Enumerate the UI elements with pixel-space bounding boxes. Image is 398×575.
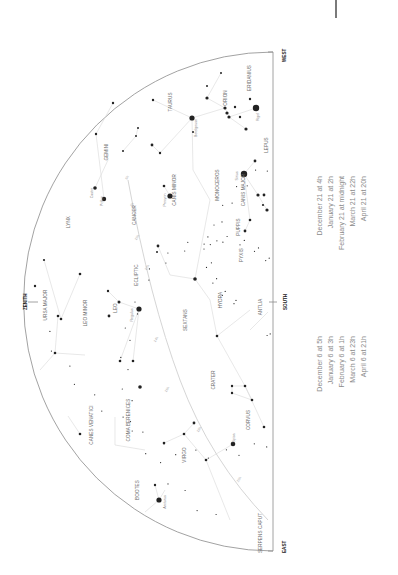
- star-label-sirius: Sirius: [235, 171, 239, 180]
- time-table-right-column: December 21 at 4h January 21 at 2h Febru…: [316, 176, 368, 250]
- time-row-right-1: December 21 at 4h: [316, 176, 323, 236]
- star-dot: [108, 315, 111, 318]
- ecliptic-hour-label: 6h: [124, 175, 129, 180]
- faint-star-dot: [222, 242, 223, 243]
- faint-star-dot: [165, 262, 166, 263]
- faint-star-dot: [132, 400, 133, 401]
- star-dot: [254, 160, 257, 163]
- faint-star-dot: [160, 462, 161, 463]
- star-dot: [118, 301, 121, 304]
- ecliptic-hour-label: 16h: [164, 386, 170, 393]
- constellation-label-antlia: ANTLIA: [258, 298, 263, 316]
- star-dot: [34, 285, 36, 287]
- star-dot: [251, 399, 254, 402]
- faint-star-dot: [213, 224, 214, 225]
- star-dot: [107, 290, 109, 292]
- star-dot: [112, 102, 114, 104]
- faint-star-dot: [137, 313, 138, 314]
- star-dot: [263, 194, 266, 197]
- star-dot: [159, 152, 161, 154]
- time-row-left-3: February 6 at 1h: [338, 336, 346, 387]
- faint-star-dot: [221, 221, 222, 222]
- star-dot: [263, 426, 266, 429]
- constellation-label-monoceros: MONOCEROS: [215, 169, 220, 201]
- faint-star-dot: [216, 278, 217, 279]
- ecliptic-hour-label: 20h: [236, 476, 242, 483]
- star-dot: [54, 352, 57, 355]
- constellation-label-gemini: GEMINI: [104, 144, 109, 161]
- faint-star-dot: [216, 240, 217, 241]
- star-dot: [135, 135, 137, 137]
- star-label-spica: Spica: [232, 434, 236, 443]
- faint-star-dot: [225, 291, 226, 292]
- time-table: December 21 at 4h January 21 at 2h Febru…: [316, 176, 368, 392]
- label-zenith: ZENITH: [23, 293, 28, 310]
- constellation-label-lynx: LYNX: [66, 216, 71, 228]
- faint-star-dot: [51, 351, 52, 352]
- star-dot: [122, 150, 124, 152]
- faint-star-dot: [211, 262, 212, 263]
- faint-star-dot: [175, 454, 176, 455]
- constellation-label-pyxis: PYXIS: [239, 248, 244, 262]
- time-table-left-column: December 6 at 5h January 6 at 3h Februar…: [316, 336, 368, 392]
- constellation-label-crater: CRATER: [211, 370, 216, 390]
- faint-star-dot: [49, 331, 50, 332]
- constellation-labels: ERIDANIUSORIONTAURUSGEMINILEPUSCANIS MIN…: [43, 65, 269, 553]
- faint-star-dot: [123, 417, 124, 418]
- star-dot: [249, 219, 252, 222]
- star-dot: [205, 96, 208, 99]
- star-dot: [193, 277, 197, 281]
- star-dot: [225, 111, 228, 114]
- star-dot: [95, 133, 97, 135]
- star-dot: [157, 245, 160, 248]
- faint-star-dot: [129, 340, 130, 341]
- constellation-label-virgo: VIRGO: [182, 447, 187, 463]
- faint-star-dot: [236, 186, 237, 187]
- star-dot: [156, 251, 158, 253]
- label-west: WEST: [282, 49, 287, 62]
- constellation-label-bootes: BOOTES: [135, 480, 140, 500]
- star-dot: [60, 318, 63, 321]
- constellation-label-ursa-major: URSA MAJOR: [43, 289, 48, 320]
- star-dot: [223, 106, 226, 109]
- constellation-label-lepus: LEPUS: [264, 137, 269, 153]
- time-row-left-4: March 6 at 23h: [349, 336, 356, 383]
- faint-star-dot: [149, 268, 150, 269]
- faint-star-dot: [235, 300, 236, 301]
- faint-star-dot: [239, 244, 240, 245]
- star-dot: [262, 204, 264, 206]
- faint-star-dot: [269, 258, 270, 259]
- star-dot: [227, 115, 230, 118]
- faint-star-dot: [232, 203, 233, 204]
- faint-star-dot: [266, 446, 267, 447]
- star-label-regulus: Regulus: [130, 308, 134, 321]
- time-row-left-1: December 6 at 5h: [316, 336, 323, 392]
- star-dot: [249, 98, 251, 100]
- constellation-label-canis-minor: CANIS MINOR: [172, 174, 177, 206]
- faint-star-dot: [238, 455, 239, 456]
- faint-star-dot: [207, 236, 208, 237]
- faint-star-dot: [142, 432, 143, 433]
- star-label-castor: Castor: [90, 187, 94, 198]
- ecliptic-hour-label: 12h: [144, 264, 150, 271]
- faint-star-dot: [226, 449, 227, 450]
- star-dot: [138, 385, 142, 389]
- star-dot: [156, 497, 161, 502]
- constellation-label-coma-berenices: COMA BERENICES: [126, 399, 131, 442]
- star-dot: [244, 385, 247, 388]
- constellation-label-sextans: SEXTANS: [183, 309, 188, 331]
- star-dot: [57, 315, 60, 318]
- star-label-arcturus: Arcturus: [163, 495, 167, 509]
- star-label-rigel: Rigel: [256, 113, 260, 121]
- constellation-label-canes-venatici: CANES VENATICI: [89, 405, 94, 444]
- faint-star-dot: [197, 510, 198, 511]
- faint-star-dot: [227, 236, 228, 237]
- time-row-right-4: March 21 at 22h: [349, 176, 356, 227]
- star-dot: [265, 208, 268, 211]
- faint-star-dot: [185, 490, 186, 491]
- faint-star-dot: [125, 327, 126, 328]
- constellation-label-corvus: CORVUS: [246, 410, 251, 430]
- faint-star-dot: [255, 170, 256, 171]
- constellation-label-canis-major: CANIS MAJOR: [241, 173, 246, 206]
- star-dot: [151, 144, 154, 147]
